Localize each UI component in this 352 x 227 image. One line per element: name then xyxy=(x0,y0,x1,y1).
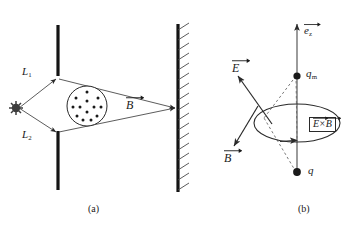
point-source-burst xyxy=(9,101,23,115)
label-path-L1-sub: 1 xyxy=(28,71,32,78)
physics-figure: L1 L2 B (a) xyxy=(0,0,352,227)
hatched-screen xyxy=(178,23,189,192)
label-path-L2-sub: 2 xyxy=(28,134,32,141)
label-path-L1: L1 xyxy=(22,66,32,79)
panel-a-graphics xyxy=(0,0,196,227)
cross-product-symbol: × xyxy=(319,118,326,129)
panel-b-graphics xyxy=(196,0,352,227)
charge-electric-dot xyxy=(293,168,301,176)
panel-a: L1 L2 B (a) xyxy=(0,0,196,227)
panel-b: ez E B qm xyxy=(196,0,352,227)
vector-E-arrow xyxy=(238,76,272,124)
caption-panel-a: (a) xyxy=(88,203,99,214)
label-vector-B-panel-b: B xyxy=(224,152,231,164)
charge-magnetic-dot xyxy=(293,72,300,79)
label-charge-electric: q xyxy=(308,165,314,176)
label-unit-vector-ez: ez xyxy=(304,25,312,38)
magnetic-field-out-of-page xyxy=(67,86,107,126)
label-vector-B-panel-a: B xyxy=(126,99,133,111)
label-path-L2: L2 xyxy=(22,129,32,142)
label-charge-magnetic-sub: m xyxy=(312,73,317,80)
label-vector-E: E xyxy=(232,62,239,74)
label-poynting-ExB: E × B xyxy=(309,117,336,132)
label-ez-sub: z xyxy=(309,30,312,37)
label-charge-magnetic: qm xyxy=(306,68,317,81)
caption-panel-b: (b) xyxy=(298,203,310,214)
dashed-connector-lines xyxy=(264,76,297,172)
